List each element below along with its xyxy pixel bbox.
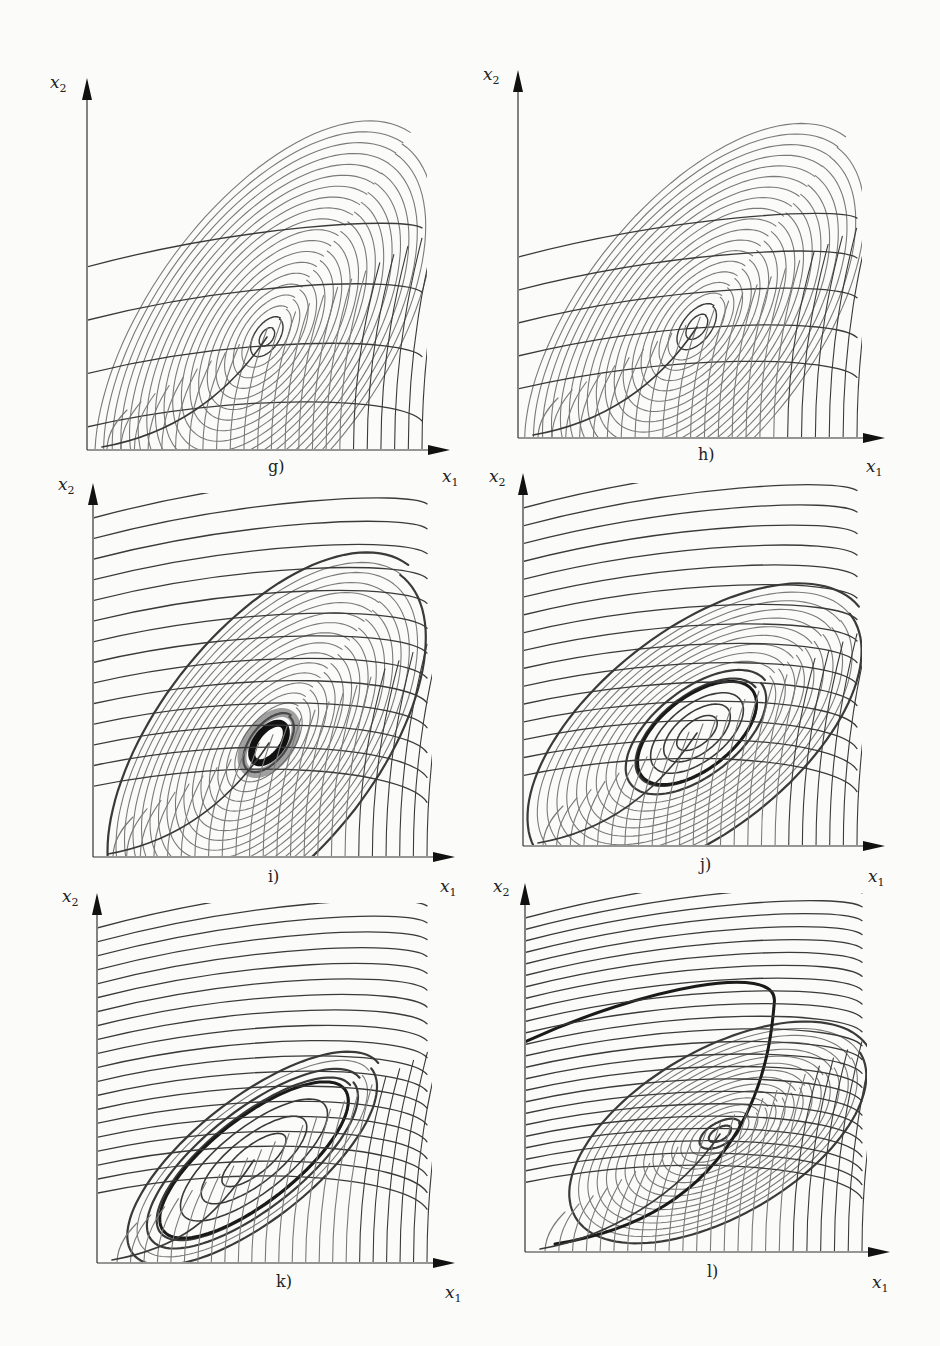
panel-caption: l): [707, 1262, 718, 1281]
x1-axis-label: x1: [872, 1272, 889, 1295]
axes: [525, 897, 878, 1252]
plot-area: [0, 0, 940, 1346]
y-axis-arrow-icon: [520, 883, 530, 905]
x2-axis-label: x2: [493, 876, 510, 899]
x-axis-arrow-icon: [868, 1247, 890, 1257]
